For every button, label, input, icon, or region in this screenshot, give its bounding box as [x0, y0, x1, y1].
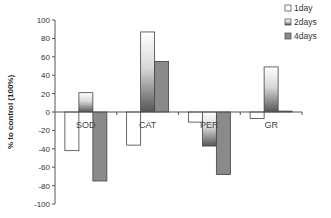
- y-tick-label: 100: [37, 16, 51, 25]
- y-tick-label: -100: [34, 200, 51, 209]
- y-axis: 100806040200-20-40-60-80-100: [34, 16, 55, 209]
- legend-label: 4days: [294, 31, 317, 41]
- y-tick-label: 60: [41, 53, 50, 62]
- y-tick-label: -20: [38, 126, 50, 135]
- y-tick-label: -80: [38, 182, 50, 191]
- legend-swatch-2days: [285, 19, 291, 25]
- y-tick-label: 40: [41, 71, 50, 80]
- y-axis-title: % to control (100%): [6, 75, 15, 150]
- legend-swatch-4days: [285, 33, 291, 39]
- y-tick-label: 20: [41, 90, 50, 99]
- legend-label: 1day: [294, 3, 313, 13]
- y-tick-label: 0: [46, 108, 51, 117]
- legend-swatch-1day: [285, 5, 291, 11]
- category-label: CAT: [139, 120, 157, 130]
- category-label: GR: [264, 120, 278, 130]
- bar-chart: 100806040200-20-40-60-80-100 SODCATPERGR…: [0, 0, 331, 218]
- legend-label: 2days: [294, 17, 317, 27]
- y-tick-label: 80: [41, 34, 50, 43]
- y-tick-label: -40: [38, 145, 50, 154]
- bar-sod-2days: [79, 93, 93, 112]
- x-axis: SODCATPERGR: [55, 112, 302, 130]
- category-label: PER: [200, 120, 219, 130]
- y-tick-label: -60: [38, 163, 50, 172]
- bar-sod-1day: [65, 112, 79, 151]
- bars: [65, 32, 292, 181]
- bar-gr-1day: [250, 112, 264, 118]
- legend: 1day2days4days: [285, 3, 317, 41]
- category-label: SOD: [76, 120, 96, 130]
- bar-cat-4days: [155, 61, 169, 112]
- bar-cat-2days: [141, 32, 155, 112]
- bar-gr-2days: [264, 67, 278, 112]
